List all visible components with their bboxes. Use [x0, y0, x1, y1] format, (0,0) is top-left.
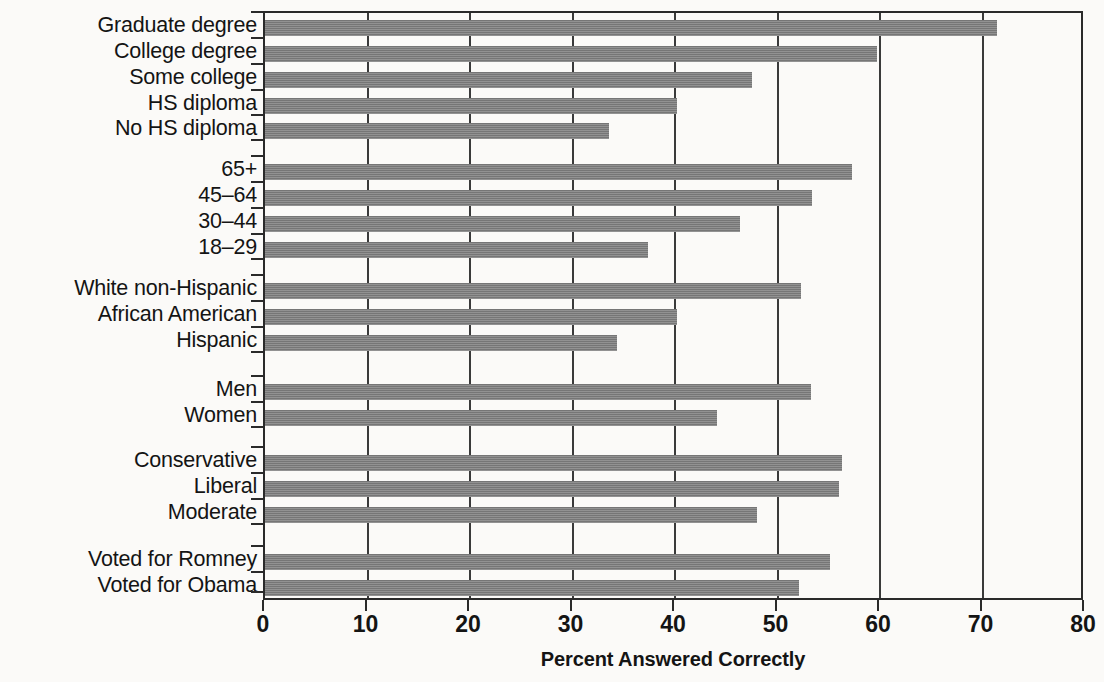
bar [265, 554, 830, 570]
category-label: Voted for Romney [0, 549, 257, 571]
y-tick [251, 426, 264, 428]
category-label: 18–29 [0, 237, 257, 259]
bar-chart: Graduate degreeCollege degreeSome colleg… [0, 0, 1104, 682]
x-tick [672, 600, 674, 611]
category-label: HS diploma [0, 93, 257, 115]
x-tick [1082, 600, 1084, 611]
category-label: 30–44 [0, 211, 257, 233]
x-tick-label: 80 [1053, 613, 1104, 636]
bar [265, 20, 997, 36]
bar [265, 507, 757, 523]
y-tick [251, 326, 264, 328]
bar [265, 98, 677, 114]
category-label: Liberal [0, 476, 257, 498]
y-tick [251, 89, 264, 91]
x-tick [570, 600, 572, 611]
category-labels: Graduate degreeCollege degreeSome colleg… [0, 0, 257, 600]
category-label: Conservative [0, 450, 257, 472]
category-label: 45–64 [0, 185, 257, 207]
y-tick [251, 114, 264, 116]
category-label: 65+ [0, 159, 257, 181]
bar [265, 283, 801, 299]
bar [265, 242, 648, 258]
y-tick [251, 401, 264, 403]
y-tick [251, 207, 264, 209]
gridline [879, 13, 881, 598]
x-tick-label: 50 [746, 613, 806, 636]
x-tick-label: 10 [336, 613, 396, 636]
y-tick [251, 233, 264, 235]
bar [265, 410, 717, 426]
x-tick-label: 70 [951, 613, 1011, 636]
category-label: No HS diploma [0, 118, 257, 140]
category-label: Women [0, 405, 257, 427]
category-label: College degree [0, 41, 257, 63]
y-tick [251, 181, 264, 183]
category-label: Graduate degree [0, 15, 257, 37]
x-tick [877, 600, 879, 611]
x-axis-title: Percent Answered Correctly [263, 648, 1083, 671]
y-tick [251, 571, 264, 573]
bar [265, 72, 752, 88]
category-label: White non-Hispanic [0, 278, 257, 300]
bar [265, 164, 852, 180]
category-label: Moderate [0, 502, 257, 524]
y-tick [251, 351, 264, 353]
bar [265, 309, 677, 325]
bar [265, 335, 617, 351]
bar [265, 580, 799, 596]
y-tick [251, 274, 264, 276]
y-tick [251, 155, 264, 157]
y-tick [251, 523, 264, 525]
bar [265, 481, 839, 497]
x-tick [980, 600, 982, 611]
category-label: Voted for Obama [0, 575, 257, 597]
y-tick [251, 498, 264, 500]
x-tick-label: 60 [848, 613, 908, 636]
y-tick [251, 258, 264, 260]
category-label: Hispanic [0, 330, 257, 352]
y-tick [251, 446, 264, 448]
bar [265, 384, 811, 400]
x-tick [365, 600, 367, 611]
y-tick [251, 591, 264, 593]
bar [265, 46, 877, 62]
y-tick [251, 63, 264, 65]
y-tick [251, 139, 264, 141]
y-tick [251, 472, 264, 474]
gridline [982, 13, 984, 598]
plot-area [263, 11, 1083, 600]
y-tick [251, 375, 264, 377]
y-tick [251, 545, 264, 547]
y-tick [251, 300, 264, 302]
bar [265, 123, 609, 139]
x-tick [262, 600, 264, 611]
bar [265, 190, 812, 206]
category-label: Some college [0, 67, 257, 89]
bar [265, 455, 842, 471]
x-tick [467, 600, 469, 611]
x-tick-label: 40 [643, 613, 703, 636]
gridline [777, 13, 779, 598]
y-tick [251, 37, 264, 39]
x-tick [775, 600, 777, 611]
x-tick-label: 20 [438, 613, 498, 636]
category-label: African American [0, 304, 257, 326]
x-tick-label: 0 [233, 613, 293, 636]
y-tick [251, 11, 264, 13]
bar [265, 216, 740, 232]
category-label: Men [0, 379, 257, 401]
x-tick-label: 30 [541, 613, 601, 636]
